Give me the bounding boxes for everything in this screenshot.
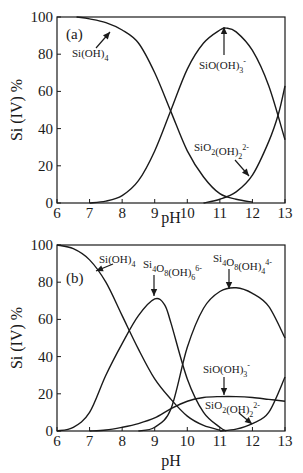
label-part: 3 (239, 66, 243, 75)
panel-0: 678910111213020406080100pHSi (IV) %(a)Si… (8, 9, 293, 227)
label-part: Si(OH) (72, 47, 105, 60)
x-tick-label: 6 (53, 433, 61, 449)
series-label-si4o8-oh-6-6: Si4O8(OH)66- (143, 258, 202, 282)
label-part: 4 (261, 267, 265, 276)
label-part: (OH) (226, 403, 250, 416)
y-tick-label: 20 (38, 386, 53, 402)
label-part: 4- (265, 258, 272, 267)
x-tick-label: 13 (278, 205, 293, 221)
panel-label: (a) (66, 26, 83, 43)
x-tick-label: 7 (86, 433, 94, 449)
label-part: (OH) (238, 260, 262, 273)
label-part: 2- (253, 401, 260, 410)
series-label-si-oh-4: Si(OH)4 (99, 253, 135, 269)
x-tick-label: 12 (245, 433, 260, 449)
arrowhead-icon (151, 289, 157, 296)
label-part: 2 (249, 410, 253, 419)
label-part: SiO(OH) (203, 363, 244, 376)
label-part: 4 (131, 260, 135, 269)
x-tick-label: 11 (213, 205, 227, 221)
y-axis-label: Si (IV) % (8, 79, 26, 141)
series-line-sio-oh-3 (90, 28, 285, 203)
label-part: O (156, 262, 164, 274)
y-tick-label: 60 (38, 311, 53, 327)
x-tick-label: 9 (151, 433, 159, 449)
label-part: Si (143, 258, 152, 270)
label-part: Si(OH) (99, 253, 132, 266)
y-tick-label: 0 (46, 423, 54, 439)
series-label-si4o8-oh-4-4: Si4O8(OH)44- (213, 252, 272, 276)
label-part: 4 (104, 54, 108, 63)
x-tick-label: 8 (118, 205, 126, 221)
label-part: 2- (242, 143, 249, 152)
panel-label: (b) (66, 270, 84, 287)
x-tick-label: 9 (151, 205, 159, 221)
y-tick-label: 100 (31, 9, 54, 25)
x-tick-label: 11 (213, 433, 227, 449)
y-axis-label: Si (IV) % (8, 307, 26, 369)
label-part: 3 (243, 370, 247, 379)
label-part: 6 (191, 273, 195, 282)
series-line-si4o8-oh-6-6 (57, 298, 226, 431)
x-tick-label: 6 (53, 205, 61, 221)
series-label-sio2-oh-2-2: SiO2(OH)22- (194, 141, 249, 161)
series-label-si-oh-4: Si(OH)4 (72, 47, 108, 63)
x-tick-label: 12 (245, 205, 260, 221)
label-part: Si (213, 252, 222, 264)
label-part: SiO (194, 141, 211, 153)
y-tick-label: 80 (38, 46, 53, 62)
x-tick-label: 8 (118, 433, 126, 449)
figure: 678910111213020406080100pHSi (IV) %(a)Si… (0, 0, 303, 473)
label-part: SiO (205, 399, 222, 411)
label-part: O (226, 256, 234, 268)
x-tick-label: 10 (180, 205, 195, 221)
x-tick-label: 7 (86, 205, 94, 221)
label-part: SiO(OH) (199, 59, 240, 72)
y-tick-label: 0 (46, 195, 54, 211)
series-label-sio2-oh-2-2: SiO2(OH)22- (205, 399, 260, 419)
series-label-sio-oh-3: SiO(OH)3- (199, 57, 246, 75)
x-tick-label: 13 (278, 433, 293, 449)
label-part: - (247, 361, 250, 370)
label-part: - (243, 57, 246, 66)
y-tick-label: 60 (38, 83, 53, 99)
label-part: (OH) (168, 266, 192, 279)
series-label-sio-oh-3: SiO(OH)3- (203, 361, 250, 379)
arrowhead-icon (221, 388, 227, 395)
label-part: (OH) (215, 145, 239, 158)
x-axis-label: pH (161, 209, 181, 227)
x-tick-label: 10 (180, 433, 195, 449)
series-line-si-oh-4 (77, 17, 253, 202)
panel-1: 678910111213020406080100pHSi (IV) %(b)Si… (8, 237, 293, 470)
x-axis-label: pH (161, 452, 181, 470)
label-part: 2 (238, 152, 242, 161)
y-tick-label: 80 (38, 274, 53, 290)
y-tick-label: 40 (38, 121, 53, 137)
y-tick-label: 20 (38, 158, 53, 174)
y-tick-label: 100 (31, 237, 54, 253)
label-part: 6- (195, 264, 202, 273)
y-tick-label: 40 (38, 349, 53, 365)
